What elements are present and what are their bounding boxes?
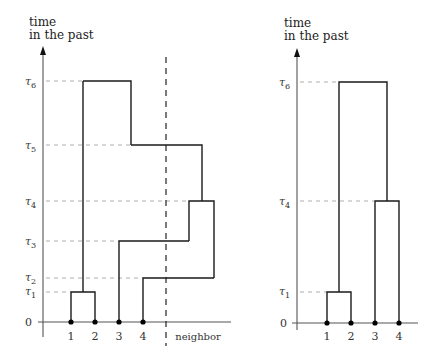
right-panel: time in the past τ6 τ4 τ1 0 1 2 3 4 xyxy=(279,16,418,343)
left-lineage-3 xyxy=(119,241,189,322)
right-coalescence-tau1 xyxy=(327,292,351,323)
left-tau5-label: τ5 xyxy=(25,139,36,154)
right-coalescence-tau6 xyxy=(339,82,387,292)
left-tau6-label: τ6 xyxy=(25,75,36,90)
right-leaf-label-1: 1 xyxy=(324,330,331,343)
left-tau1-label: τ1 xyxy=(25,285,36,300)
left-tau2-label: τ2 xyxy=(25,271,36,286)
left-leaf-4 xyxy=(140,319,145,324)
left-axis-arrow-icon xyxy=(40,46,46,55)
left-coalescence-tau1 xyxy=(71,292,95,322)
left-leaf-label-2: 2 xyxy=(92,330,99,343)
left-lineage-4 xyxy=(143,278,214,322)
left-leaf-label-1: 1 xyxy=(68,330,75,343)
left-coalescence-tau4 xyxy=(189,201,214,278)
right-tau4-label: τ4 xyxy=(279,195,290,210)
left-leaf-1 xyxy=(68,319,73,324)
right-tau6-label: τ6 xyxy=(279,76,290,91)
left-panel: time in the past τ6 τ5 τ4 τ3 τ2 τ1 0 xyxy=(25,15,231,346)
right-coalescence-tau4 xyxy=(375,201,399,323)
left-axis-title-line2: in the past xyxy=(29,28,94,42)
right-tau1-label: τ1 xyxy=(279,285,290,300)
right-leaf-2 xyxy=(348,320,353,325)
left-tau4-label: τ4 xyxy=(25,195,36,210)
right-leaf-3 xyxy=(372,320,377,325)
neighbor-label: neighbor xyxy=(175,331,221,342)
left-leaf-label-3: 3 xyxy=(116,330,123,343)
right-axis-arrow-icon xyxy=(294,48,300,57)
right-axis-title-line2: in the past xyxy=(284,29,349,43)
left-coalescence-tau6 xyxy=(83,81,131,145)
left-leaf-3 xyxy=(116,319,121,324)
right-leaf-label-4: 4 xyxy=(396,330,403,343)
left-leaf-2 xyxy=(92,319,97,324)
left-leaf-label-4: 4 xyxy=(140,330,147,343)
right-leaf-label-3: 3 xyxy=(372,330,379,343)
right-leaf-4 xyxy=(396,320,401,325)
left-zero-label: 0 xyxy=(25,316,32,329)
genealogy-diagram: time in the past τ6 τ5 τ4 τ3 τ2 τ1 0 xyxy=(0,0,441,360)
right-leaf-label-2: 2 xyxy=(348,330,355,343)
left-tau3-label: τ3 xyxy=(25,235,36,250)
right-zero-label: 0 xyxy=(280,317,287,330)
left-axis-title-line1: time xyxy=(29,15,56,29)
right-axis-title-line1: time xyxy=(284,16,311,30)
right-leaf-1 xyxy=(324,320,329,325)
